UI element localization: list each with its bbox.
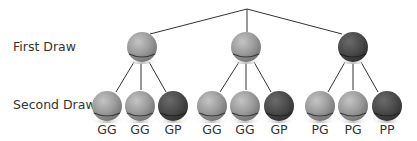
leaf-label-5: GG [230, 122, 260, 137]
leaf-label-3: GP [158, 122, 188, 137]
first-draw-ball-2 [228, 32, 264, 64]
leaf-label-4: GG [197, 122, 227, 137]
ball-gg-4 [228, 91, 262, 123]
leaf-label-9: PP [372, 122, 402, 137]
first-draw-ball-1 [124, 32, 160, 64]
ball-pg-2 [336, 91, 370, 123]
second-draw-balls [90, 91, 404, 123]
leaf-label-1: GG [92, 122, 122, 137]
ball-gp-1 [156, 91, 190, 123]
ball-gg-1 [90, 91, 124, 123]
ball-gp-2 [262, 91, 296, 123]
leaf-label-8: PG [338, 122, 368, 137]
leaf-label-7: PG [305, 122, 335, 137]
ball-pp [370, 91, 404, 123]
ball-pg-1 [303, 91, 337, 123]
ball-gg-3 [195, 91, 229, 123]
leaf-label-2: GG [125, 122, 155, 137]
first-draw-ball-3 [335, 32, 371, 64]
tree-diagram [0, 0, 417, 141]
ball-gg-2 [123, 91, 157, 123]
leaf-label-6: GP [264, 122, 294, 137]
